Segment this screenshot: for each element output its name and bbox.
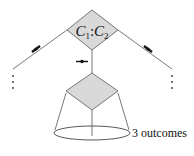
outcomes-label: 3 outcomes	[132, 126, 187, 140]
decision-tree-diagram: C1:C2 3 outcomes	[0, 0, 194, 156]
stem-arrow-marker-icon	[76, 60, 88, 64]
top-node-label: C1:C2	[75, 23, 108, 41]
right-arrow-marker-icon	[144, 46, 152, 52]
left-arrow-marker-icon	[32, 46, 40, 52]
right-branch-line	[118, 30, 172, 69]
bottom-decision-node	[66, 73, 118, 110]
cone-right-line	[118, 93, 129, 130]
left-ellipsis-icon	[12, 75, 14, 89]
left-branch-line	[13, 30, 67, 69]
cone-left-line	[55, 93, 66, 130]
right-ellipsis-icon	[171, 75, 173, 89]
